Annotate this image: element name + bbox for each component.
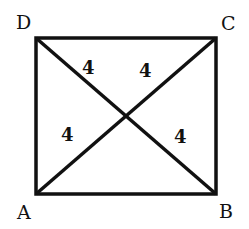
vertex-label-c: C — [221, 12, 236, 34]
rectangle-diagonals-diagram: D C A B 4 4 4 4 — [0, 0, 249, 229]
segment-label-co: 4 — [139, 60, 152, 81]
segment-label-bo: 4 — [174, 126, 187, 147]
segment-label-do: 4 — [82, 57, 95, 78]
vertex-label-d: D — [16, 11, 31, 33]
vertex-label-b: B — [219, 200, 233, 222]
segment-label-ao: 4 — [61, 124, 74, 145]
vertex-label-a: A — [16, 201, 31, 223]
